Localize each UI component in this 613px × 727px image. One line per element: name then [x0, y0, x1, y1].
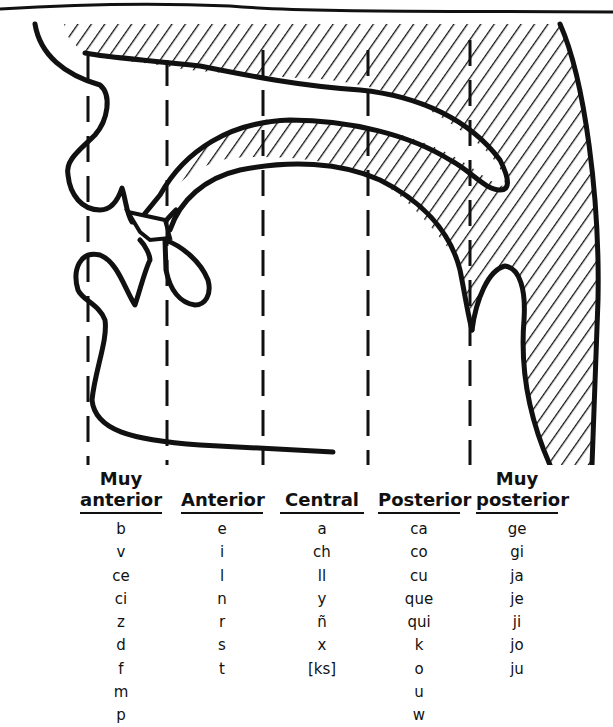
consonant-position-table: Muy anterior b v ce ci z d f m p Anterio…	[0, 465, 613, 719]
list-item: i	[181, 541, 263, 564]
list-item: z	[80, 611, 162, 634]
list-item: ge	[476, 518, 558, 541]
list-item: s	[181, 634, 263, 657]
column-header: Central	[280, 465, 364, 510]
column-header: Posterior	[378, 465, 460, 510]
list-item: je	[476, 588, 558, 611]
column-muy-posterior: Muy posterior ge gi ja je ji jo ju	[476, 465, 558, 681]
list-item: l	[181, 565, 263, 588]
vocal-tract-diagram	[0, 0, 613, 465]
list-item: x	[280, 634, 364, 657]
list-item: ci	[80, 588, 162, 611]
list-item: ja	[476, 565, 558, 588]
list-item: w	[378, 704, 460, 727]
list-item: co	[378, 541, 460, 564]
lower-teeth-outline	[165, 240, 209, 305]
list-item: ñ	[280, 611, 364, 634]
list-item: p	[80, 704, 162, 727]
list-item: r	[181, 611, 263, 634]
column-anterior: Anterior e i l n r s t	[181, 465, 263, 681]
header-underline	[476, 512, 558, 514]
list-item: que	[378, 588, 460, 611]
list-item: [ks]	[280, 658, 364, 681]
list-item: ca	[378, 518, 460, 541]
column-header: Muy posterior	[476, 465, 558, 510]
articulation-zone-guides	[88, 40, 470, 465]
list-item: v	[80, 541, 162, 564]
list-item: f	[80, 658, 162, 681]
list-item: b	[80, 518, 162, 541]
column-muy-anterior: Muy anterior b v ce ci z d f m p	[80, 465, 162, 727]
list-item: cu	[378, 565, 460, 588]
list-item: o	[378, 658, 460, 681]
list-item: ll	[280, 565, 364, 588]
column-header: Anterior	[181, 465, 263, 510]
list-item: gi	[476, 541, 558, 564]
header-underline	[280, 512, 364, 514]
header-underline	[181, 512, 263, 514]
list-item: n	[181, 588, 263, 611]
list-item: k	[378, 634, 460, 657]
list-item: d	[80, 634, 162, 657]
upper-teeth	[128, 212, 170, 240]
list-item: ce	[80, 565, 162, 588]
list-item: ji	[476, 611, 558, 634]
list-item: ju	[476, 658, 558, 681]
column-header: Muy anterior	[80, 465, 162, 510]
list-item: jo	[476, 634, 558, 657]
column-central: Central a ch ll y ñ x [ks]	[280, 465, 364, 681]
header-underline	[80, 512, 162, 514]
top-rule	[0, 4, 613, 12]
list-item: y	[280, 588, 364, 611]
list-item: t	[181, 658, 263, 681]
list-item: a	[280, 518, 364, 541]
header-underline	[378, 512, 460, 514]
list-item: ch	[280, 541, 364, 564]
list-item: u	[378, 681, 460, 704]
column-posterior: Posterior ca co cu que qui k o u w	[378, 465, 460, 727]
list-item: qui	[378, 611, 460, 634]
list-item: m	[80, 681, 162, 704]
list-item: e	[181, 518, 263, 541]
